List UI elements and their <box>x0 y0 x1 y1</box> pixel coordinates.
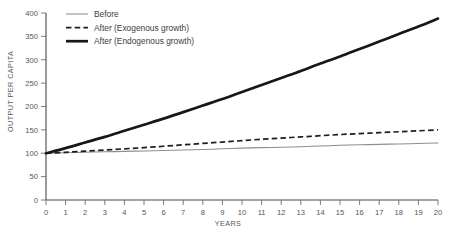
y-tick-label: 50 <box>30 172 38 181</box>
series-line-exogenous-growth <box>46 130 438 153</box>
x-axis-title: YEARS <box>215 219 242 228</box>
output-per-capita-line-chart: 050100150200250300350400 OUTPUT PER CAPI… <box>0 0 460 239</box>
x-tick-label: 2 <box>83 208 87 217</box>
y-tick-label: 0 <box>34 196 38 205</box>
x-axis-ticks: 01234567891011121314151617181920 <box>44 200 442 217</box>
x-tick-label: 9 <box>220 208 224 217</box>
y-tick-label: 200 <box>25 102 38 111</box>
y-axis-title: OUTPUT PER CAPITA <box>6 51 15 132</box>
series-line-before <box>46 143 438 153</box>
y-tick-label: 300 <box>25 56 38 65</box>
x-tick-label: 16 <box>355 208 363 217</box>
x-tick-label: 1 <box>63 208 67 217</box>
x-tick-label: 20 <box>434 208 442 217</box>
y-tick-label: 150 <box>25 126 38 135</box>
chart-legend: BeforeAfter (Exogenous growth)After (End… <box>66 9 194 46</box>
y-tick-label: 250 <box>25 79 38 88</box>
y-tick-label: 400 <box>25 9 38 18</box>
y-axis-ticks: 050100150200250300350400 <box>25 9 46 205</box>
x-tick-label: 3 <box>103 208 107 217</box>
x-tick-label: 7 <box>181 208 185 217</box>
x-tick-label: 15 <box>336 208 344 217</box>
x-tick-label: 13 <box>297 208 305 217</box>
x-tick-label: 19 <box>414 208 422 217</box>
chart-container: 050100150200250300350400 OUTPUT PER CAPI… <box>0 0 460 239</box>
y-tick-label: 350 <box>25 32 38 41</box>
legend-label-before: Before <box>94 9 119 19</box>
x-tick-label: 5 <box>142 208 146 217</box>
x-tick-label: 4 <box>122 208 126 217</box>
x-tick-label: 10 <box>238 208 246 217</box>
x-tick-label: 11 <box>258 208 266 217</box>
y-axis-group: 050100150200250300350400 OUTPUT PER CAPI… <box>6 9 46 205</box>
legend-label-exogenous-growth: After (Exogenous growth) <box>94 23 189 33</box>
x-tick-label: 18 <box>395 208 403 217</box>
x-tick-label: 17 <box>375 208 383 217</box>
x-tick-label: 14 <box>316 208 324 217</box>
y-tick-label: 100 <box>25 149 38 158</box>
x-tick-label: 6 <box>161 208 165 217</box>
legend-label-endogenous-growth: After (Endogenous growth) <box>94 36 194 46</box>
x-tick-label: 0 <box>44 208 48 217</box>
x-axis-group: 01234567891011121314151617181920 YEARS <box>44 200 442 228</box>
x-tick-label: 12 <box>277 208 285 217</box>
x-tick-label: 8 <box>201 208 205 217</box>
